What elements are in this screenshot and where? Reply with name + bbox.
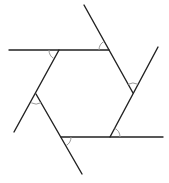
lower-left-side-extended	[36, 94, 82, 174]
upper-right-side-extended	[84, 5, 133, 93]
hexagon-diagram	[0, 0, 169, 183]
exterior-angle-arcs	[31, 41, 138, 145]
angle-arc-bottom-right	[115, 128, 120, 137]
lower-right-side-extended	[110, 47, 158, 137]
angle-arc-right	[128, 83, 138, 84]
angle-arc-top-right	[99, 41, 104, 50]
angle-arc-left	[31, 103, 41, 104]
angle-arc-top-left	[49, 50, 54, 59]
upper-left-side-extended	[14, 50, 59, 132]
extended-sides	[9, 5, 163, 174]
angle-arc-bottom-left	[66, 137, 71, 146]
